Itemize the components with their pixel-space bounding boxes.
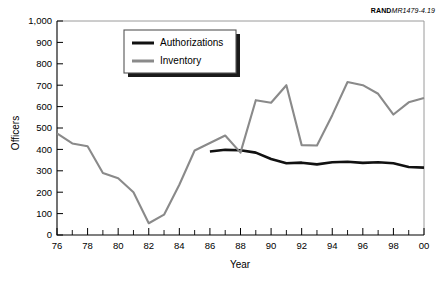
chart-legend: AuthorizationsInventory (124, 30, 240, 77)
y-tick-label: 200 (36, 187, 52, 198)
y-axis-ticks (57, 21, 63, 235)
x-tick-label: 86 (205, 240, 216, 251)
x-tick-label: 76 (52, 240, 63, 251)
x-tick-label: 88 (235, 240, 246, 251)
source-note-id: MR1479-4.19 (391, 7, 435, 14)
y-tick-label: 500 (36, 122, 52, 133)
x-tick-label: 78 (82, 240, 93, 251)
x-axis-ticks (57, 228, 424, 235)
series-line-inventory (57, 82, 424, 223)
y-tick-label: 100 (36, 208, 52, 219)
chart-figure: RANDMR1479-4.19 010020030040050060070080… (0, 0, 441, 281)
x-tick-label: 84 (174, 240, 185, 251)
y-tick-label: 700 (36, 80, 52, 91)
data-series-layer (57, 82, 424, 223)
x-tick-label: 90 (266, 240, 277, 251)
legend-label-authorizations: Authorizations (160, 37, 223, 48)
y-tick-label: 0 (47, 229, 52, 240)
y-tick-label: 900 (36, 37, 52, 48)
x-axis-labels: 76788082848688909294969800 (52, 240, 430, 251)
legend-label-inventory: Inventory (160, 55, 201, 66)
y-tick-label: 1,000 (28, 15, 52, 26)
source-note-prefix: RAND (371, 7, 392, 14)
y-tick-label: 800 (36, 58, 52, 69)
source-note: RANDMR1479-4.19 (371, 7, 435, 14)
series-line-authorizations (210, 150, 424, 168)
x-tick-label: 00 (419, 240, 430, 251)
y-tick-label: 400 (36, 144, 52, 155)
x-tick-label: 98 (388, 240, 399, 251)
y-axis-labels: 01002003004005006007008009001,000 (28, 15, 52, 240)
x-tick-label: 92 (296, 240, 307, 251)
line-chart-svg: 01002003004005006007008009001,000 767880… (0, 0, 441, 281)
x-tick-label: 94 (327, 240, 338, 251)
x-tick-label: 82 (143, 240, 154, 251)
x-tick-label: 80 (113, 240, 124, 251)
x-axis-title: Year (230, 259, 251, 270)
y-axis-title: Officers (10, 116, 21, 150)
plot-frame (57, 21, 424, 235)
y-tick-label: 300 (36, 165, 52, 176)
x-tick-label: 96 (358, 240, 369, 251)
y-tick-label: 600 (36, 101, 52, 112)
